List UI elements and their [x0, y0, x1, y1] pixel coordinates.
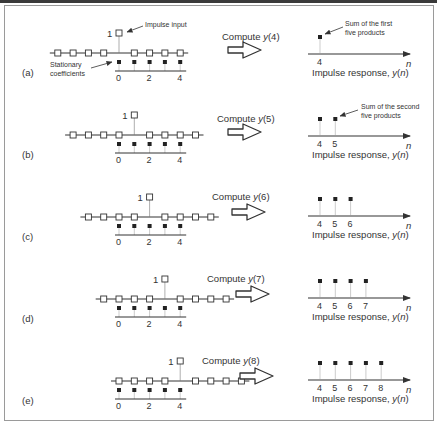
coefficient-tick-label: 4: [177, 73, 182, 83]
output-sample: [318, 117, 322, 121]
coefficient-3: [163, 60, 167, 64]
coefficient-0: [117, 306, 121, 310]
compute-arrow-icon: [240, 368, 273, 384]
zero-input-sample: [131, 214, 137, 220]
zero-input-sample: [101, 132, 107, 138]
zero-input-sample: [101, 214, 107, 220]
coefficient-3: [163, 388, 167, 392]
output-sample: [333, 361, 337, 365]
output-sample: [379, 361, 383, 365]
zero-input-sample: [85, 214, 91, 220]
sum-second-pointer: [340, 110, 358, 116]
output-tick-label: 8: [378, 383, 383, 393]
stationary-coefficients-label-line1: Stationary: [50, 61, 82, 69]
compute-arrow-icon: [228, 42, 261, 58]
coefficient-tick-label: 2: [147, 155, 152, 165]
convolution-diagram: (a)1024Compute y(4)n4Impulse response, y…: [0, 0, 437, 428]
impulse-input-pointer: [127, 26, 143, 32]
zero-input-sample: [177, 296, 183, 302]
stationary-coefficients-pointer: [91, 62, 112, 68]
coefficient-2: [148, 142, 152, 146]
zero-input-sample: [131, 296, 137, 302]
coefficient-tick-label: 2: [147, 237, 152, 247]
output-sample: [333, 197, 337, 201]
coefficient-0: [117, 224, 121, 228]
coefficient-tick-label: 4: [177, 237, 182, 247]
panel-label: (b): [22, 149, 34, 160]
coefficient-2: [148, 306, 152, 310]
impulse-response-label: Impulse response, y(n): [312, 393, 409, 404]
output-sample: [364, 361, 368, 365]
zero-input-sample: [162, 378, 168, 384]
panel-label: (e): [22, 395, 34, 406]
stationary-coefficients-label-line2: coefficients: [50, 70, 85, 77]
output-tick-label: 5: [332, 383, 337, 393]
output-tick-label: 4: [317, 139, 322, 149]
output-tick-label: 4: [317, 57, 322, 67]
compute-arrow-icon: [228, 124, 261, 140]
zero-input-sample: [116, 296, 122, 302]
output-tick-label: 5: [332, 139, 337, 149]
panel-label: (d): [22, 313, 34, 324]
zero-input-sample: [131, 50, 137, 56]
coefficient-2: [148, 224, 152, 228]
coefficient-1: [132, 224, 136, 228]
compute-label: Compute y(5): [217, 113, 275, 124]
output-sample: [318, 279, 322, 283]
zero-input-sample: [70, 132, 76, 138]
coefficient-4: [178, 306, 182, 310]
coefficient-2: [148, 388, 152, 392]
coefficient-1: [132, 142, 136, 146]
output-sample: [318, 361, 322, 365]
output-tick-label: 6: [348, 219, 353, 229]
coefficient-1: [132, 306, 136, 310]
impulse-value-label: 1: [153, 274, 158, 285]
panel-label: (a): [22, 67, 34, 78]
coefficient-tick-label: 0: [116, 319, 121, 329]
output-tick-label: 7: [363, 301, 368, 311]
coefficient-1: [132, 60, 136, 64]
impulse-sample: [147, 194, 153, 200]
zero-input-sample: [147, 378, 153, 384]
impulse-response-label: Impulse response, y(n): [312, 311, 409, 322]
panel-e: (e)1024Compute y(8)n45678Impulse respons…: [22, 355, 411, 411]
coefficient-4: [178, 224, 182, 228]
coefficient-2: [148, 60, 152, 64]
impulse-sample: [177, 358, 183, 364]
sum-second-label-line1: Sum of the second: [361, 103, 419, 110]
zero-input-sample: [147, 132, 153, 138]
coefficient-4: [178, 60, 182, 64]
zero-input-sample: [193, 132, 199, 138]
sum-second-label-line2: five products: [361, 112, 401, 120]
coefficient-4: [178, 388, 182, 392]
zero-input-sample: [85, 132, 91, 138]
panel-c: (c)1024Compute y(6)n456Impulse response,…: [22, 191, 411, 247]
zero-input-sample: [223, 296, 229, 302]
panel-b: (b)1024Compute y(5)n45Impulse response, …: [22, 110, 411, 165]
impulse-response-label: Impulse response, y(n): [312, 229, 409, 240]
panel-label: (c): [22, 231, 33, 242]
zero-input-sample: [208, 378, 214, 384]
coefficient-tick-label: 2: [147, 73, 152, 83]
compute-label: Compute y(4): [222, 31, 280, 42]
coefficient-0: [117, 60, 121, 64]
impulse-value-label: 1: [122, 110, 127, 121]
zero-input-sample: [70, 50, 76, 56]
impulse-value-label: 1: [168, 356, 173, 367]
zero-input-sample: [177, 132, 183, 138]
impulse-response-label: Impulse response, y(n): [312, 67, 409, 78]
zero-input-sample: [147, 296, 153, 302]
output-sample: [349, 361, 353, 365]
output-sample: [318, 35, 322, 39]
output-sample: [318, 197, 322, 201]
zero-input-sample: [101, 296, 107, 302]
output-sample: [349, 197, 353, 201]
coefficient-tick-label: 0: [116, 401, 121, 411]
zero-input-sample: [101, 50, 107, 56]
zero-input-sample: [162, 50, 168, 56]
impulse-value-label: 1: [138, 192, 143, 203]
coefficient-tick-label: 4: [177, 319, 182, 329]
zero-input-sample: [131, 378, 137, 384]
zero-input-sample: [85, 50, 91, 56]
output-tick-label: 4: [317, 219, 322, 229]
